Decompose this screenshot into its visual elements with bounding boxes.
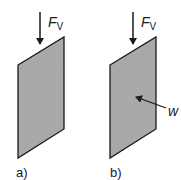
force-label-a: FV [48, 14, 64, 32]
caption-b: b) [110, 165, 122, 180]
plate-b [110, 37, 156, 158]
wind-label: w [168, 103, 179, 119]
diagram-canvas: FV a) FV w b) [0, 0, 181, 180]
panel-a: FV a) [16, 12, 64, 180]
panel-b: FV w b) [110, 12, 179, 180]
plate-a [18, 37, 64, 158]
caption-a: a) [16, 165, 28, 180]
force-label-b: FV [141, 14, 157, 32]
